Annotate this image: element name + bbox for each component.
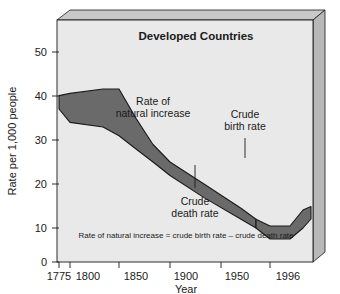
demographic-transition-chart: 50 40 30 20 10 0 1775 1800 1850 1900 195… bbox=[0, 0, 340, 294]
x-tick-label-1900: 1900 bbox=[174, 270, 198, 282]
frame-top-bevel bbox=[57, 10, 325, 20]
x-tick-label-1996: 1996 bbox=[276, 270, 300, 282]
y-tick-label-30: 30 bbox=[35, 134, 47, 146]
y-tick-label-20: 20 bbox=[35, 178, 47, 190]
y-tick-label-50: 50 bbox=[35, 46, 47, 58]
x-tick-label-1800: 1800 bbox=[76, 270, 100, 282]
x-axis-ticks bbox=[59, 262, 270, 268]
annotation-natural-increase-line1: Rate of bbox=[136, 95, 170, 107]
footnote-equation: Rate of natural increase = crude birth r… bbox=[78, 231, 294, 240]
frame-right-panel bbox=[313, 10, 325, 262]
annotation-crude-death-rate-line2: death rate bbox=[171, 207, 218, 219]
annotation-natural-increase-line2: natural increase bbox=[116, 107, 191, 119]
annotation-crude-death-rate-line1: Crude bbox=[181, 195, 210, 207]
y-tick-label-40: 40 bbox=[35, 90, 47, 102]
annotation-crude-birth-rate-line2: birth rate bbox=[224, 120, 266, 132]
x-tick-label-1950: 1950 bbox=[225, 270, 249, 282]
x-tick-label-1850: 1850 bbox=[124, 270, 148, 282]
y-tick-label-10: 10 bbox=[35, 222, 47, 234]
x-axis-title: Year bbox=[175, 283, 198, 294]
x-tick-label-1775: 1775 bbox=[47, 270, 71, 282]
chart-figure: 50 40 30 20 10 0 1775 1800 1850 1900 195… bbox=[0, 0, 340, 294]
y-axis-title: Rate per 1,000 people bbox=[6, 87, 18, 196]
annotation-crude-birth-rate-line1: Crude bbox=[231, 108, 260, 120]
y-tick-label-0: 0 bbox=[41, 256, 47, 268]
chart-title: Developed Countries bbox=[138, 30, 253, 42]
